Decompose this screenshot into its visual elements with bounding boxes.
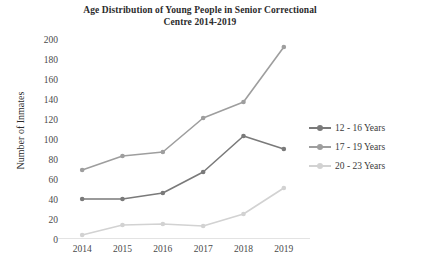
x-axis-tick-label: 2019 <box>262 244 306 254</box>
data-point <box>201 224 206 229</box>
legend-item-label: 20 - 23 Years <box>335 161 385 171</box>
data-point <box>161 222 166 227</box>
legend-marker-icon <box>309 161 331 171</box>
series-line <box>82 136 284 199</box>
y-axis-tick-label: 60 <box>24 175 58 185</box>
data-point <box>120 154 125 159</box>
legend-marker-icon <box>309 123 331 133</box>
legend-item-label: 12 - 16 Years <box>335 123 385 133</box>
y-axis-tick-label: 180 <box>24 55 58 65</box>
data-point <box>241 100 246 105</box>
series-line <box>82 47 284 170</box>
legend-item[interactable]: 12 - 16 Years <box>309 118 421 137</box>
chart-container: Age Distribution of Young People in Seni… <box>0 0 426 279</box>
data-point <box>80 197 85 202</box>
chart-title: Age Distribution of Young People in Seni… <box>55 4 345 28</box>
chart-title-line-1: Age Distribution of Young People in Seni… <box>55 4 345 16</box>
data-point <box>241 212 246 217</box>
chart-title-line-2: Centre 2014-2019 <box>55 16 345 28</box>
data-point <box>282 186 287 191</box>
data-point <box>120 223 125 228</box>
x-axis-tick-label: 2014 <box>60 244 104 254</box>
y-axis-tick-label: 200 <box>24 35 58 45</box>
y-axis-tick-label: 40 <box>24 195 58 205</box>
x-axis-tick-label: 2018 <box>222 244 266 254</box>
x-axis-tick-label: 2016 <box>141 244 185 254</box>
data-point <box>161 191 166 196</box>
legend-item[interactable]: 17 - 19 Years <box>309 137 421 156</box>
data-point <box>120 197 125 202</box>
data-point <box>80 168 85 173</box>
x-axis-tick-label: 2015 <box>101 244 145 254</box>
y-axis-tick-label: 160 <box>24 75 58 85</box>
series-20-23-years <box>80 186 286 238</box>
data-point <box>201 116 206 121</box>
data-point <box>201 170 206 175</box>
y-axis-tick-label: 140 <box>24 95 58 105</box>
legend-item-label: 17 - 19 Years <box>335 142 385 152</box>
data-point <box>80 233 85 238</box>
y-axis-tick-label: 100 <box>24 135 58 145</box>
legend-item[interactable]: 20 - 23 Years <box>309 156 421 175</box>
chart-legend: 12 - 16 Years17 - 19 Years20 - 23 Years <box>309 118 421 175</box>
series-line <box>82 188 284 235</box>
data-point <box>161 150 166 155</box>
y-axis-tick-label: 20 <box>24 215 58 225</box>
y-axis-tick-label: 0 <box>24 235 58 245</box>
x-axis-tick-label: 2017 <box>181 244 225 254</box>
series-12-16-years <box>80 134 286 202</box>
legend-marker-icon <box>309 142 331 152</box>
data-point <box>241 134 246 139</box>
y-axis-tick-label: 80 <box>24 155 58 165</box>
y-axis-tick-label: 120 <box>24 115 58 125</box>
data-point <box>282 147 287 152</box>
y-axis-tick-labels: 200180160140120100806040200 <box>22 0 58 279</box>
data-point <box>282 45 287 50</box>
series-17-19-years <box>80 45 286 173</box>
plot-area <box>62 40 304 240</box>
